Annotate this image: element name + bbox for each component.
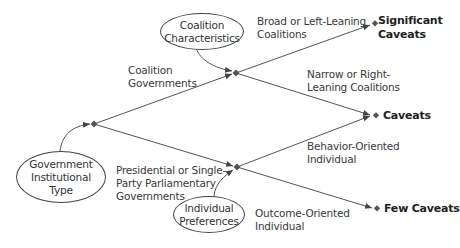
label-line: Individual	[307, 153, 400, 166]
edge-coalition-oval	[196, 48, 232, 71]
branch-label-narrow: Narrow or Right- Leaning Coalitions	[307, 68, 400, 94]
oval-line: Individual	[179, 202, 239, 215]
label-line: Behavior-Oriented	[307, 140, 400, 153]
label-line: Governments	[128, 77, 197, 90]
oval-line: Coalition	[164, 19, 240, 32]
outcome-line: Caveats	[378, 28, 443, 42]
few-terminal-node	[374, 205, 380, 211]
edge-root-oval	[60, 124, 90, 151]
label-line: Narrow or Right-	[307, 68, 400, 81]
label-line: Party Parliamentary	[116, 177, 226, 190]
outcome-line: Few Caveats	[384, 202, 460, 216]
oval-line: Preferences	[179, 215, 239, 228]
oval-line: Institutional	[29, 171, 92, 184]
coalition-characteristics-oval: Coalition Characteristics	[160, 13, 244, 50]
outcome-line: Caveats	[383, 109, 431, 123]
label-line: Leaning Coalitions	[307, 81, 400, 94]
oval-line: Characteristics	[164, 32, 240, 45]
branch-label-outcome: Outcome-Oriented Individual	[255, 207, 350, 233]
label-line: Individual	[255, 220, 350, 233]
label-line: Outcome-Oriented	[255, 207, 350, 220]
government-institutional-type-oval: Government Institutional Type	[16, 151, 106, 203]
edge-outcome	[237, 167, 372, 208]
oval-line: Government	[29, 158, 92, 171]
lower-decision-node	[233, 163, 240, 170]
outcome-few-caveats: Few Caveats	[384, 202, 460, 216]
oval-line: Type	[29, 184, 92, 197]
root-decision-node	[90, 120, 97, 127]
branch-label-presidential: Presidential or Single- Party Parliament…	[116, 164, 226, 203]
outcome-caveats: Caveats	[383, 109, 431, 123]
branch-label-broad: Broad or Left-Leaning Coalitions	[257, 15, 366, 41]
upper-decision-node	[232, 69, 239, 76]
label-line: Coalitions	[257, 28, 366, 41]
label-line: Coalition	[128, 64, 197, 77]
edge-presidential	[94, 124, 233, 166]
outcome-line: Significant	[378, 14, 443, 28]
caveats-terminal-node	[373, 112, 379, 118]
outcome-significant-caveats: Significant Caveats	[378, 14, 443, 42]
label-line: Presidential or Single-	[116, 164, 226, 177]
branch-label-coalition: Coalition Governments	[128, 64, 197, 90]
branch-label-behavior: Behavior-Oriented Individual	[307, 140, 400, 166]
label-line: Broad or Left-Leaning	[257, 15, 366, 28]
label-line: Governments	[116, 190, 226, 203]
